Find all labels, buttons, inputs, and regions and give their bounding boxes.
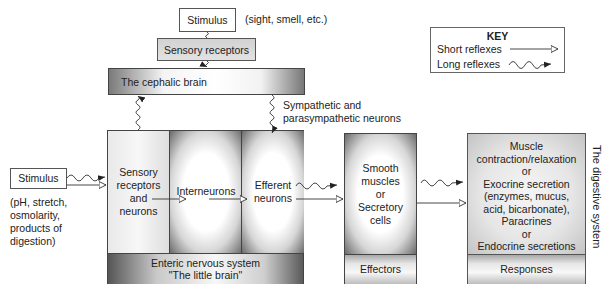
effectors-footer-label: Effectors xyxy=(345,263,416,276)
sensory-line-2: receptors xyxy=(108,179,169,192)
cephalic-brain-label: The cephalic brain xyxy=(121,76,207,89)
top-stimulus-label: Stimulus xyxy=(180,14,235,27)
effectors-line-1: Smooth xyxy=(345,162,416,175)
effectors-box: Smooth muscles or Secretory cells Effect… xyxy=(344,133,417,284)
responses-body: Muscle contraction/relaxation or Exocrin… xyxy=(468,134,585,254)
efferent-line-1: Efferent xyxy=(242,179,304,192)
legend-key: KEY Short reflexes Long reflexes xyxy=(430,27,565,73)
effectors-footer: Effectors xyxy=(345,254,416,284)
interneurons-label: Interneurons xyxy=(170,185,242,198)
responses-line-6: acid, bicarbonate), xyxy=(468,203,585,216)
responses-box: Muscle contraction/relaxation or Exocrin… xyxy=(467,133,586,284)
top-stimulus-note: (sight, smell, etc.) xyxy=(245,13,327,26)
efferent-line-2: neurons xyxy=(242,192,304,205)
sensory-receptors-label: Sensory receptors xyxy=(158,44,255,57)
effectors-body: Smooth muscles or Secretory cells xyxy=(345,134,416,254)
responses-footer-label: Responses xyxy=(468,263,585,276)
legend-long-reflexes: Long reflexes xyxy=(437,58,500,71)
sensory-line-4: neurons xyxy=(108,205,169,218)
left-stimulus-note-1: (pH, stretch, xyxy=(10,196,67,209)
left-stimulus-note-2: osmolarity, xyxy=(10,209,60,222)
effectors-line-3: or xyxy=(345,188,416,201)
responses-footer: Responses xyxy=(468,254,585,284)
autonomic-note-line2: parasympathetic neurons xyxy=(283,112,401,125)
legend-short-reflexes: Short reflexes xyxy=(437,43,502,56)
enteric-nervous-system: Sensory receptors and neurons Interneuro… xyxy=(107,130,304,284)
enteric-footer-line1: Enteric nervous system xyxy=(108,257,303,270)
responses-line-3: or xyxy=(468,165,585,178)
interneurons-column: Interneurons xyxy=(169,131,242,253)
sensory-line-1: Sensory xyxy=(108,166,169,179)
wavy-arrow-left-stimulus xyxy=(67,175,105,181)
responses-line-9: Endocrine secretions xyxy=(468,240,585,253)
efferent-neurons-column: Efferent neurons xyxy=(241,131,304,253)
effectors-line-2: muscles xyxy=(345,175,416,188)
responses-line-1: Muscle xyxy=(468,140,585,153)
left-stimulus-label: Stimulus xyxy=(11,172,66,185)
wavy-arrow-effectors-to-responses xyxy=(421,180,463,186)
responses-line-5: (enzymes, mucus, xyxy=(468,190,585,203)
left-stimulus-note-3: products of xyxy=(10,222,62,235)
left-stimulus-note-4: digestion) xyxy=(10,235,56,248)
legend-title: KEY xyxy=(431,30,564,43)
effectors-line-5: cells xyxy=(345,214,416,227)
responses-line-4: Exocrine secretion xyxy=(468,178,585,191)
responses-line-7: Paracrines xyxy=(468,215,585,228)
top-stimulus-box: Stimulus xyxy=(179,8,236,32)
responses-line-8: or xyxy=(468,228,585,241)
left-stimulus-box: Stimulus xyxy=(10,168,67,189)
wavy-arrow-brain-to-efferent xyxy=(270,95,274,133)
wavy-arrow-ens-to-brain xyxy=(136,96,140,130)
digestive-system-label: The digestive system xyxy=(591,145,603,248)
enteric-footer-line2: "The little brain" xyxy=(108,269,303,282)
autonomic-note-line1: Sympathetic and xyxy=(283,99,361,112)
effectors-line-4: Secretory xyxy=(345,201,416,214)
sensory-neurons-column: Sensory receptors and neurons xyxy=(108,131,169,253)
enteric-footer: Enteric nervous system "The little brain… xyxy=(108,253,303,284)
cephalic-brain-bar: The cephalic brain xyxy=(108,68,305,95)
sensory-line-3: and xyxy=(108,192,169,205)
sensory-receptors-box: Sensory receptors xyxy=(157,38,256,61)
responses-line-2: contraction/relaxation xyxy=(468,153,585,166)
wavy-arrow-receptors-to-brain xyxy=(206,61,209,67)
